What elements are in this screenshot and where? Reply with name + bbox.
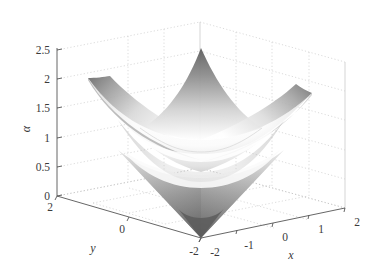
- z-tick-label: 1.5: [36, 102, 51, 114]
- x-tick-label: 1: [318, 223, 324, 235]
- x-tick-labels: -2 -1 0 1 2: [210, 216, 360, 258]
- z-axis: [57, 48, 62, 196]
- z-tick-labels: 2.5 2 1.5 1 0.5 0: [36, 44, 51, 202]
- surface-plot-3d: 2.5 2 1.5 1 0.5 0 2 0 -2 -2 -1 0 1 2 α y…: [0, 0, 375, 278]
- x-tick-label: -1: [244, 239, 254, 251]
- y-tick-label: -2: [189, 245, 199, 257]
- z-tick-label: 1: [44, 132, 50, 144]
- x-tick-label: 0: [282, 231, 288, 243]
- upper-surface-saddle: [88, 48, 312, 182]
- x-tick-label: -2: [210, 246, 220, 258]
- y-axis-label: y: [89, 241, 96, 255]
- y-tick-label: 2: [47, 201, 53, 213]
- z-axis-label: α: [19, 125, 33, 132]
- y-tick-label: 0: [119, 223, 125, 235]
- figure-canvas: 2.5 2 1.5 1 0.5 0 2 0 -2 -2 -1 0 1 2 α y…: [0, 0, 375, 278]
- x-axis-label: x: [287, 248, 294, 262]
- z-tick-label: 2.5: [36, 44, 51, 56]
- z-tick-label: 0.5: [36, 161, 51, 173]
- x-tick-label: 2: [354, 216, 360, 228]
- z-tick-label: 2: [44, 73, 50, 85]
